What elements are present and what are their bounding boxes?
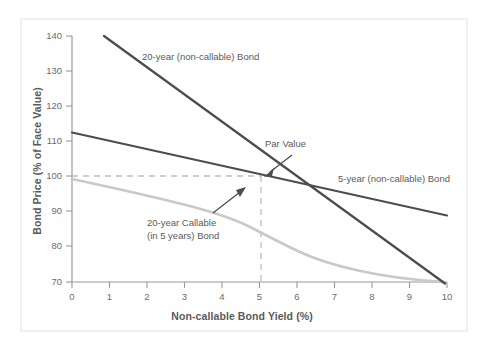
x-tick-label-8: 8 (360, 291, 384, 302)
y-tick-label-140: 140 (32, 30, 62, 41)
x-tick-label-7: 7 (323, 291, 347, 302)
x-tick-marks (72, 282, 447, 288)
x-tick-label-5: 5 (248, 291, 272, 302)
y-tick-marks (66, 36, 72, 282)
x-tick-label-2: 2 (135, 291, 159, 302)
x-tick-label-4: 4 (210, 291, 234, 302)
annotation-par-value-label: Par Value (265, 138, 306, 150)
chart-screenshot: 140 130 120 110 100 90 80 70 0 1 2 3 4 5… (0, 0, 484, 351)
x-tick-label-3: 3 (173, 291, 197, 302)
annotation-20yr-callable-label-line2: (in 5 years) Bond (147, 230, 219, 242)
x-axis-title: Non-callable Bond Yield (%) (0, 310, 484, 322)
annotation-arrows (213, 155, 292, 213)
reference-lines (72, 176, 261, 282)
annotation-5yr-noncallable-label: 5-year (non-callable) Bond (338, 173, 450, 185)
callable-arrow-head (236, 187, 246, 197)
callable-arrow-line (213, 192, 240, 213)
y-axis-title: Bond Price (% of Face Value) (31, 61, 43, 261)
x-tick-label-9: 9 (398, 291, 422, 302)
y-tick-label-70: 70 (32, 276, 62, 287)
x-tick-label-10: 10 (435, 291, 459, 302)
x-tick-label-6: 6 (285, 291, 309, 302)
x-tick-label-1: 1 (98, 291, 122, 302)
series-line-20yr-noncallable (104, 36, 445, 284)
series-line-20yr-callable (72, 179, 443, 282)
annotation-20yr-callable-label-line1: 20-year Callable (147, 217, 216, 229)
x-tick-label-0: 0 (60, 291, 84, 302)
annotation-20yr-noncallable-label: 20-year (non-callable) Bond (142, 51, 259, 63)
